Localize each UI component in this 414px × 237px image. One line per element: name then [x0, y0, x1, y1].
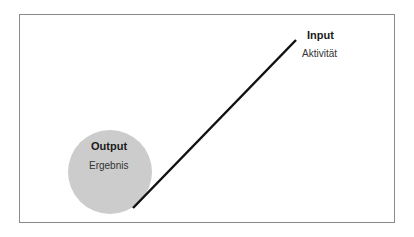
input-subtitle: Aktivität [302, 48, 337, 59]
diagram-canvas [0, 0, 414, 237]
connector-line [133, 40, 296, 208]
output-subtitle: Ergebnis [89, 160, 128, 171]
input-title: Input [307, 29, 334, 41]
output-title: Output [91, 140, 127, 152]
